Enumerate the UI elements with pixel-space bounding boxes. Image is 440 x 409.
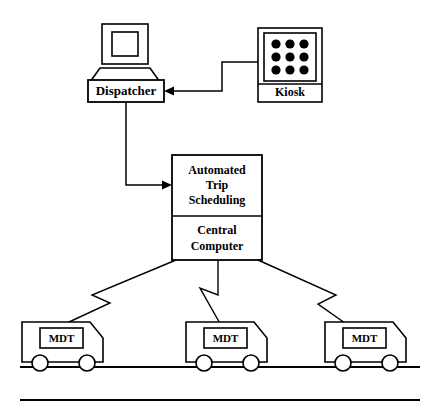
central-computer-node[interactable]: Automated Trip Scheduling Central Comput… [172,155,262,260]
vehicle-right-mdt-label: MDT [352,332,378,344]
dispatcher-label: Dispatcher [96,83,157,98]
diagram-canvas: Dispatcher Kiosk [0,0,440,409]
vehicle-left[interactable]: MDT [22,322,103,371]
vehicle-left-mdt-label: MDT [49,332,75,344]
connector-kiosk-to-dispatcher [164,62,258,96]
desktop-computer-icon [90,24,160,82]
vehicle-right[interactable]: MDT [325,322,406,371]
central-scheduling-line1: Automated [188,163,246,177]
central-computer-line2: Computer [191,239,244,253]
central-scheduling-line3: Scheduling [189,193,246,207]
kiosk-node[interactable]: Kiosk [258,28,322,102]
vehicle-center[interactable]: MDT [186,322,267,371]
system-architecture-diagram: Dispatcher Kiosk [0,0,440,409]
kiosk-label: Kiosk [275,85,305,99]
vehicle-center-mdt-label: MDT [213,332,239,344]
central-scheduling-line2: Trip [206,178,229,192]
dispatcher-node[interactable]: Dispatcher [88,80,164,102]
connector-dispatcher-to-central [126,102,172,190]
central-computer-line1: Central [197,223,237,237]
keypad-grid-icon [271,39,308,74]
